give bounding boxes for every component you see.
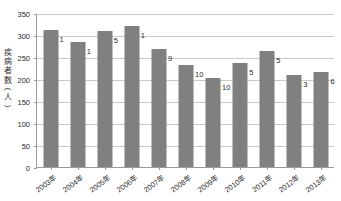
bar[interactable]	[97, 31, 112, 167]
bar-slot	[227, 14, 254, 167]
bar-value-label: 5	[249, 68, 253, 77]
y-tick-label: 100	[8, 120, 30, 129]
bar[interactable]	[233, 63, 248, 167]
bar[interactable]	[43, 30, 58, 167]
y-tick-label: 0	[8, 164, 30, 173]
bar[interactable]	[260, 51, 275, 167]
bar[interactable]	[124, 26, 139, 167]
bar-slot	[308, 14, 335, 167]
bar-slot	[172, 14, 199, 167]
bar-value-label: 3	[303, 80, 307, 89]
x-tick-label: 2008年	[166, 172, 194, 196]
y-tick-label: 200	[8, 76, 30, 85]
y-tick-mark	[34, 168, 37, 169]
bar-series: 1151910105536	[37, 14, 334, 167]
bar-slot	[254, 14, 281, 167]
bar-value-label: 6	[330, 77, 334, 86]
bar-value-label: 1	[60, 35, 64, 44]
plot-area: 1151910105536	[36, 14, 334, 168]
bar-value-label: 5	[276, 56, 280, 65]
bar-value-label: 5	[114, 36, 118, 45]
bar[interactable]	[178, 65, 193, 167]
bar[interactable]	[70, 42, 85, 167]
bar[interactable]	[314, 72, 329, 167]
bar-chart: 疾病者数(人) 050100150200250300350 1151910105…	[0, 0, 341, 201]
x-tick-label: 2009年	[193, 172, 221, 196]
bar[interactable]	[287, 75, 302, 167]
y-tick-label: 250	[8, 54, 30, 63]
bar-value-label: 1	[141, 31, 145, 40]
x-tick-label: 2007年	[139, 172, 167, 196]
x-tick-label: 2004年	[57, 172, 85, 196]
y-tick-label: 150	[8, 98, 30, 107]
bar[interactable]	[151, 49, 166, 167]
x-tick-label: 2011年	[247, 172, 275, 196]
bar-slot	[64, 14, 91, 167]
y-tick-label: 300	[8, 32, 30, 41]
x-tick-label: 2006年	[112, 172, 140, 196]
x-tick-label: 2010年	[220, 172, 248, 196]
x-tick-label: 2003年	[30, 172, 58, 196]
bar-value-label: 1	[87, 47, 91, 56]
bar-slot	[145, 14, 172, 167]
bar-slot	[281, 14, 308, 167]
y-tick-label: 50	[8, 142, 30, 151]
bar[interactable]	[206, 78, 221, 167]
x-tick-label: 2013年	[301, 172, 329, 196]
x-tick-label: 2005年	[84, 172, 112, 196]
y-axis-title-char: 者	[1, 66, 14, 75]
y-tick-label: 350	[8, 10, 30, 19]
x-tick-label: 2012年	[274, 172, 302, 196]
x-axis-tick-labels: 2003年2004年2005年2006年2007年2008年2009年2010年…	[36, 170, 334, 201]
bar-value-label: 9	[168, 54, 172, 63]
